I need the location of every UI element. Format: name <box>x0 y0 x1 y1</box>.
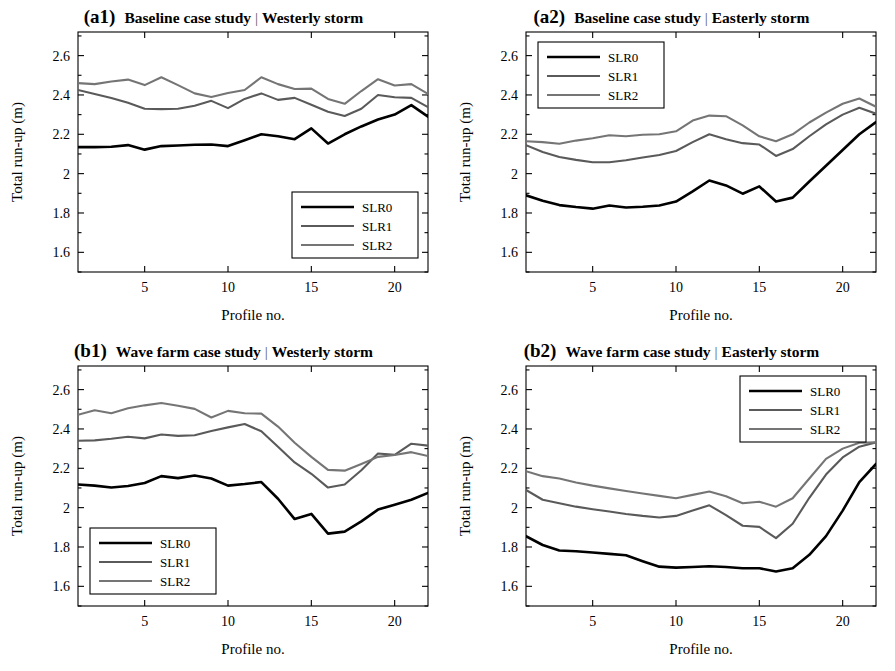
legend-label-slr2: SLR2 <box>160 574 190 589</box>
legend-label-slr1: SLR1 <box>810 403 840 418</box>
x-axis-title: Profile no. <box>221 307 284 323</box>
panel-a2: (a2)Baseline case study|Easterly storm 1… <box>448 0 895 335</box>
y-tick-label: 1.8 <box>53 206 71 221</box>
panel-b1: (b1)Wave farm case study|Westerly storm … <box>0 334 447 669</box>
panel-b1-plot: 1.61.822.22.42.65101520Profile no.Total … <box>0 334 447 669</box>
x-tick-label: 15 <box>304 280 318 295</box>
y-tick-label: 2.4 <box>501 422 519 437</box>
figure-total-runup: (a1)Baseline case study|Westerly storm 1… <box>0 0 895 671</box>
y-tick-label: 2.2 <box>501 461 519 476</box>
x-tick-label: 20 <box>836 280 850 295</box>
y-tick-label: 1.8 <box>53 540 71 555</box>
series-group <box>526 442 876 571</box>
series-group <box>526 98 876 208</box>
panel-a1: (a1)Baseline case study|Westerly storm 1… <box>0 0 447 335</box>
x-tick-label: 15 <box>304 614 318 629</box>
legend-label-slr1: SLR1 <box>362 219 392 234</box>
y-tick-label: 2.2 <box>53 461 71 476</box>
legend-a2[interactable]: SLR0SLR1SLR2 <box>538 42 664 108</box>
y-axis-title: Total run-up (m) <box>457 102 474 202</box>
legend-b1[interactable]: SLR0SLR1SLR2 <box>90 528 216 594</box>
series-line-slr1 <box>526 108 876 162</box>
y-tick-label: 1.6 <box>501 245 519 260</box>
y-tick-label: 2.6 <box>501 49 519 64</box>
series-line-slr1 <box>526 442 876 538</box>
y-axis-title: Total run-up (m) <box>9 102 26 202</box>
series-line-slr1 <box>78 90 428 116</box>
y-tick-label: 1.8 <box>501 206 519 221</box>
x-tick-label: 5 <box>589 614 596 629</box>
y-tick-label: 2.6 <box>53 383 71 398</box>
legend-label-slr0: SLR0 <box>608 50 638 65</box>
x-tick-label: 15 <box>752 280 766 295</box>
series-line-slr2 <box>526 442 876 506</box>
series-line-slr0 <box>78 105 428 149</box>
legend-b2[interactable]: SLR0SLR1SLR2 <box>740 376 866 442</box>
chart-a2: 1.61.822.22.42.65101520Profile no.Total … <box>448 0 895 335</box>
y-tick-label: 2.2 <box>501 127 519 142</box>
y-axis-title: Total run-up (m) <box>457 436 474 536</box>
panel-a2-plot: 1.61.822.22.42.65101520Profile no.Total … <box>448 0 895 335</box>
y-axis-title: Total run-up (m) <box>9 436 26 536</box>
series-line-slr0 <box>78 476 428 534</box>
y-tick-label: 2.4 <box>53 422 71 437</box>
x-tick-label: 10 <box>669 280 683 295</box>
panel-b2-plot: 1.61.822.22.42.65101520Profile no.Total … <box>448 334 895 669</box>
x-tick-label: 10 <box>221 614 235 629</box>
x-tick-label: 10 <box>221 280 235 295</box>
legend-label-slr2: SLR2 <box>362 238 392 253</box>
y-tick-label: 1.6 <box>501 579 519 594</box>
y-tick-label: 2.4 <box>53 88 71 103</box>
series-line-slr1 <box>78 424 428 488</box>
legend-label-slr1: SLR1 <box>608 69 638 84</box>
x-axis-title: Profile no. <box>669 641 732 657</box>
y-tick-label: 2.4 <box>501 88 519 103</box>
y-tick-label: 2 <box>511 501 518 516</box>
y-tick-label: 2 <box>511 167 518 182</box>
y-tick-label: 1.8 <box>501 540 519 555</box>
legend-label-slr0: SLR0 <box>362 200 392 215</box>
panel-b2: (b2)Wave farm case study|Easterly storm … <box>448 334 895 669</box>
legend-label-slr2: SLR2 <box>810 422 840 437</box>
y-tick-label: 1.6 <box>53 579 71 594</box>
legend-label-slr0: SLR0 <box>810 384 840 399</box>
y-tick-label: 2.2 <box>53 127 71 142</box>
y-tick-label: 2 <box>63 167 70 182</box>
x-tick-label: 5 <box>141 280 148 295</box>
x-axis-title: Profile no. <box>221 641 284 657</box>
legend-label-slr1: SLR1 <box>160 555 190 570</box>
series-line-slr2 <box>78 77 428 104</box>
y-tick-label: 2 <box>63 501 70 516</box>
x-tick-label: 10 <box>669 614 683 629</box>
series-line-slr0 <box>526 122 876 209</box>
x-tick-label: 5 <box>589 280 596 295</box>
y-tick-label: 2.6 <box>53 49 71 64</box>
chart-b1: 1.61.822.22.42.65101520Profile no.Total … <box>0 334 447 669</box>
x-tick-label: 20 <box>388 614 402 629</box>
chart-a1: 1.61.822.22.42.65101520Profile no.Total … <box>0 0 447 335</box>
x-tick-label: 20 <box>388 280 402 295</box>
panel-a1-plot: 1.61.822.22.42.65101520Profile no.Total … <box>0 0 447 335</box>
y-tick-label: 1.6 <box>53 245 71 260</box>
series-group <box>78 77 428 149</box>
series-line-slr0 <box>526 464 876 572</box>
x-tick-label: 15 <box>752 614 766 629</box>
series-group <box>78 403 428 534</box>
y-tick-label: 2.6 <box>501 383 519 398</box>
legend-label-slr0: SLR0 <box>160 536 190 551</box>
x-tick-label: 5 <box>141 614 148 629</box>
chart-b2: 1.61.822.22.42.65101520Profile no.Total … <box>448 334 895 669</box>
x-axis-title: Profile no. <box>669 307 732 323</box>
legend-a1[interactable]: SLR0SLR1SLR2 <box>292 192 418 258</box>
x-tick-label: 20 <box>836 614 850 629</box>
legend-label-slr2: SLR2 <box>608 88 638 103</box>
